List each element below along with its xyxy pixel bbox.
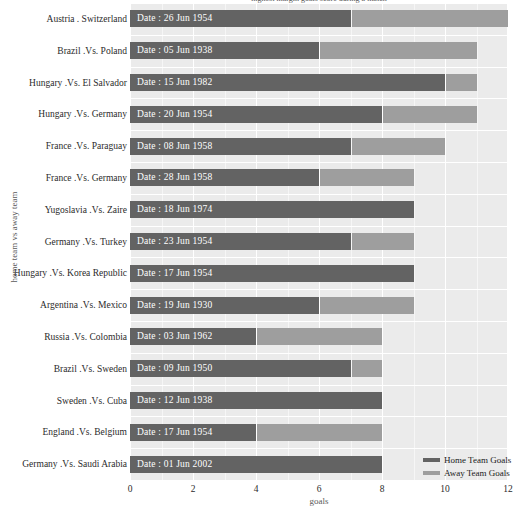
y-axis-tick-label: Austria . Switzerland [1,13,127,25]
x-axis-tick-label: 10 [430,484,460,494]
bar-segment-away[interactable] [257,424,382,441]
bar-chart: highest margin goals score during a matc… [0,0,531,513]
gridline-horizontal [130,226,508,227]
x-axis-tick-label: 4 [241,484,271,494]
bar-segment-away[interactable] [352,138,446,155]
bar-segment-away[interactable] [320,297,414,314]
bar-date-label: Date : 28 Jun 1958 [137,169,212,186]
bar-segment-away[interactable] [383,106,477,123]
gridline-horizontal [130,448,508,449]
x-axis-tick-label: 12 [493,484,523,494]
y-axis-tick-label: Hungary .Vs. Germany [1,108,127,120]
gridline-horizontal [130,321,508,322]
y-axis-tick-label: France .Vs. Germany [1,172,127,184]
bar-segment-away[interactable] [257,328,382,345]
legend-item-away: Away Team Goals [423,465,527,478]
x-axis-label: goals [130,496,508,506]
legend: Home Team Goals Away Team Goals [423,452,527,478]
y-axis-tick-label: Sweden .Vs. Cuba [1,395,127,407]
bar-segment-away[interactable] [320,169,414,186]
legend-swatch-home-icon [423,458,440,462]
bar-segment-away[interactable] [352,10,509,27]
gridline-horizontal [130,416,508,417]
bar-date-label: Date : 19 Jun 1930 [137,297,212,314]
y-axis-tick-label: France .Vs. Paraguay [1,140,127,152]
bar-date-label: Date : 12 Jun 1938 [137,392,212,409]
bar-date-label: Date : 17 Jun 1954 [137,265,212,282]
y-axis-tick-label: Brazil .Vs. Sweden [1,363,127,375]
bar-segment-away[interactable] [352,233,414,250]
bar-date-label: Date : 20 Jun 1954 [137,106,212,123]
y-axis-tick-label: England .Vs. Belgium [1,426,127,438]
bar-date-label: Date : 09 Jun 1950 [137,360,212,377]
gridline-horizontal [130,194,508,195]
gridline-horizontal [130,35,508,36]
x-axis-tick-label: 0 [115,484,145,494]
y-axis-tick-label: Russia .Vs. Colombia [1,331,127,343]
bar-date-label: Date : 17 Jun 1954 [137,424,212,441]
x-axis-tick-label: 8 [367,484,397,494]
gridline-horizontal [130,385,508,386]
bar-date-label: Date : 18 Jun 1974 [137,201,212,218]
y-axis-tick-label: Yugoslavia .Vs. Zaire [1,204,127,216]
bar-date-label: Date : 26 Jun 1954 [137,10,212,27]
bar-segment-away[interactable] [320,42,477,59]
gridline-horizontal [130,3,508,4]
legend-label-home: Home Team Goals [444,455,511,465]
gridline-horizontal [130,289,508,290]
y-axis-tick-label: Germany .Vs. Turkey [1,236,127,248]
gridline-horizontal [130,162,508,163]
gridline-horizontal [130,130,508,131]
y-axis-tick-label: Hungary .Vs. Korea Republic [1,267,127,279]
bar-date-label: Date : 01 Jun 2002 [137,456,212,473]
plot-area: Date : 26 Jun 1954Date : 05 Jun 1938Date… [130,3,508,480]
bar-date-label: Date : 08 Jun 1958 [137,138,212,155]
gridline-horizontal [130,257,508,258]
legend-swatch-away-icon [423,471,440,475]
y-axis-tick-label: Hungary .Vs. El Salvador [1,77,127,89]
gridline-horizontal [130,353,508,354]
y-axis-tick-labels: Austria . SwitzerlandBrazil .Vs. PolandH… [0,0,127,513]
y-axis-tick-label: Argentina .Vs. Mexico [1,299,127,311]
bar-date-label: Date : 05 Jun 1938 [137,42,212,59]
y-axis-label: home team vs away team [9,177,19,297]
gridline-horizontal [130,67,508,68]
x-axis-tick-label: 2 [178,484,208,494]
legend-item-home: Home Team Goals [423,452,527,465]
y-axis-tick-label: Germany .Vs. Saudi Arabia [1,458,127,470]
gridline-horizontal [130,98,508,99]
bar-segment-away[interactable] [352,360,383,377]
gridline-major [507,3,508,480]
bar-date-label: Date : 03 Jun 1962 [137,328,212,345]
bar-date-label: Date : 23 Jun 1954 [137,233,212,250]
gridline-minor [477,3,478,480]
x-axis-tick-label: 6 [304,484,334,494]
legend-label-away: Away Team Goals [444,468,510,478]
y-axis-tick-label: Brazil .Vs. Poland [1,45,127,57]
bar-segment-away[interactable] [446,74,477,91]
bar-date-label: Date : 15 Jun 1982 [137,74,212,91]
